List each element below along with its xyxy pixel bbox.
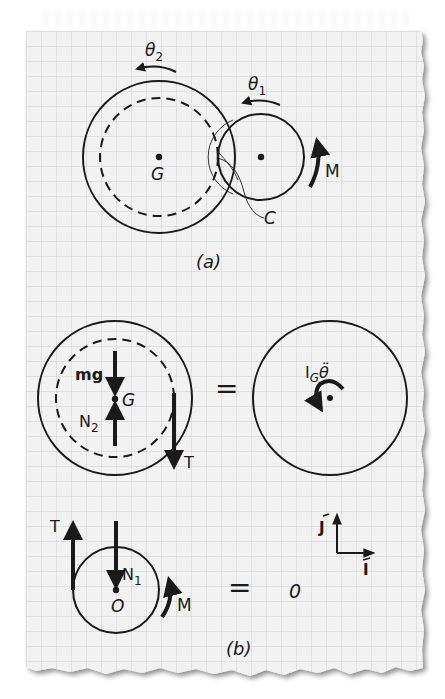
equals-sign-2: = bbox=[228, 571, 251, 604]
moment-label-small-gear: M bbox=[177, 595, 192, 615]
large-gear-center-label: G bbox=[151, 164, 164, 184]
large-gear-center-dot bbox=[156, 154, 162, 160]
caption-part-b: (b) bbox=[226, 638, 251, 659]
small-gear-center-dot bbox=[258, 154, 264, 160]
engineering-diagram: G C θ2 θ1 M (a) G mg N2 bbox=[0, 0, 445, 699]
tension-label-small-gear: T bbox=[49, 517, 60, 536]
tension-label-large-gear: T bbox=[183, 453, 194, 472]
caption-part-a: (a) bbox=[196, 251, 221, 272]
equals-sign-1: = bbox=[215, 372, 238, 405]
j-unit-vector-label: J bbox=[318, 519, 325, 537]
fbd-small-gear-center-dot bbox=[113, 587, 119, 593]
zero-result: 0 bbox=[289, 580, 301, 602]
fbd-center-label-g: G bbox=[122, 390, 135, 410]
moment-label: M bbox=[325, 161, 340, 181]
i-unit-vector-label: I bbox=[363, 561, 369, 579]
weight-label: mg bbox=[75, 365, 103, 384]
contact-point-label: C bbox=[264, 208, 276, 228]
fbd-center-label-o: O bbox=[111, 596, 124, 616]
kinetic-diagram-center-dot bbox=[327, 395, 333, 401]
graph-paper bbox=[26, 31, 425, 676]
fbd-large-gear-center-dot bbox=[112, 396, 118, 402]
